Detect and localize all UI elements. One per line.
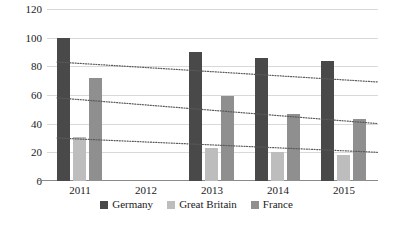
y-tick-label: 60 xyxy=(2,90,42,101)
legend-item-great-britain: Great Britain xyxy=(167,199,237,210)
bar-great-britain-2013 xyxy=(205,148,218,181)
x-tick-label-2012: 2012 xyxy=(135,183,157,197)
bar-france-2013 xyxy=(221,96,234,181)
bar-germany-2011 xyxy=(57,38,70,181)
bar-great-britain-2014 xyxy=(271,152,284,181)
bar-germany-2014 xyxy=(255,58,268,181)
bar-great-britain-2011 xyxy=(73,137,86,181)
gridline xyxy=(47,9,378,10)
chart-legend: Germany Great Britain France xyxy=(0,199,393,210)
legend-item-germany: Germany xyxy=(100,199,153,210)
y-tick-label: 100 xyxy=(2,32,42,43)
x-tick-label-2015: 2015 xyxy=(333,183,355,197)
y-axis: 120 100 80 60 40 20 0 xyxy=(0,9,42,181)
y-tick-label: 40 xyxy=(2,118,42,129)
y-tick-label: 120 xyxy=(2,4,42,15)
bar-france-2015 xyxy=(353,119,366,181)
bar-chart: 120 100 80 60 40 20 0 xyxy=(0,0,393,226)
bar-great-britain-2015 xyxy=(337,155,350,181)
x-tick-label-2013: 2013 xyxy=(201,183,223,197)
bar-germany-2015 xyxy=(321,61,334,181)
plot-area xyxy=(47,9,378,181)
y-tick-label: 0 xyxy=(2,176,42,187)
legend-swatch-icon xyxy=(100,201,108,209)
x-axis: 2011 2012 2013 2014 2015 xyxy=(47,183,378,199)
bar-france-2014 xyxy=(287,114,300,181)
legend-label: Great Britain xyxy=(179,199,237,210)
y-tick-label: 20 xyxy=(2,147,42,158)
legend-swatch-icon xyxy=(251,201,259,209)
y-tick-label: 80 xyxy=(2,61,42,72)
bar-france-2011 xyxy=(89,78,102,181)
bar-germany-2013 xyxy=(189,52,202,181)
legend-label: Germany xyxy=(112,199,153,210)
x-tick-label-2014: 2014 xyxy=(267,183,289,197)
legend-item-france: France xyxy=(251,199,293,210)
legend-swatch-icon xyxy=(167,201,175,209)
legend-label: France xyxy=(263,199,293,210)
x-tick-label-2011: 2011 xyxy=(69,183,91,197)
gridline xyxy=(47,38,378,39)
